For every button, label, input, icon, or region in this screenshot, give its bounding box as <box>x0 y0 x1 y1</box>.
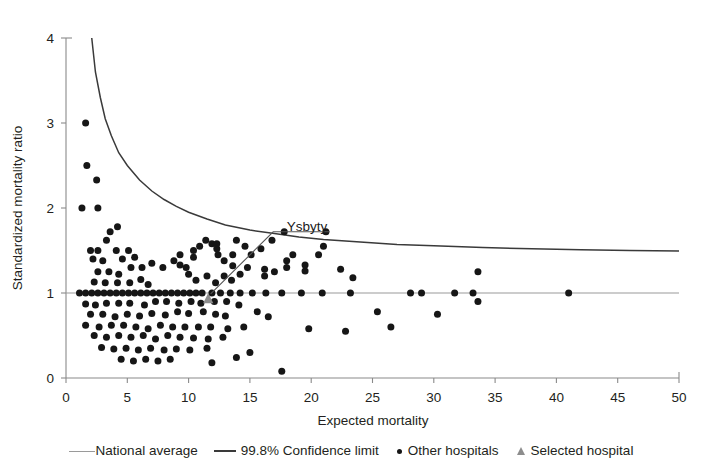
data-point <box>89 256 96 263</box>
data-point <box>82 322 89 329</box>
data-point <box>315 251 322 258</box>
data-point <box>418 290 425 297</box>
data-point <box>113 290 120 297</box>
data-point <box>143 290 150 297</box>
y-tick-label: 4 <box>46 31 54 46</box>
data-point <box>387 324 394 331</box>
data-point <box>96 324 103 331</box>
x-tick-label: 5 <box>124 390 132 405</box>
x-tick-label: 25 <box>365 390 380 405</box>
data-point <box>228 277 235 284</box>
data-point <box>120 322 127 329</box>
confidence-limit-curve <box>92 38 679 251</box>
data-point <box>150 290 157 297</box>
data-point <box>203 273 210 280</box>
data-point <box>132 324 139 331</box>
data-point <box>125 290 132 297</box>
data-point <box>374 308 381 315</box>
data-point <box>233 354 240 361</box>
data-point <box>125 247 132 254</box>
data-point <box>164 332 171 339</box>
data-point <box>141 301 148 308</box>
data-point <box>212 311 219 318</box>
data-point <box>83 162 90 169</box>
data-point <box>197 300 204 307</box>
data-point <box>94 290 101 297</box>
data-point <box>215 251 222 258</box>
data-point <box>103 334 110 341</box>
data-point <box>261 273 268 280</box>
data-point <box>470 290 477 297</box>
x-axis-tick-labels: 05101520253035404550 <box>62 390 686 405</box>
data-point <box>261 266 268 273</box>
data-point <box>242 243 249 250</box>
data-point <box>565 290 572 297</box>
data-point <box>115 271 122 278</box>
data-point <box>195 324 202 331</box>
x-tick-label: 15 <box>242 390 257 405</box>
y-tick-label: 0 <box>46 371 54 386</box>
data-point <box>108 322 115 329</box>
data-point <box>213 240 220 247</box>
data-point <box>101 290 108 297</box>
data-point <box>181 324 188 331</box>
data-point <box>93 176 100 183</box>
x-tick-label: 45 <box>610 390 625 405</box>
legend-label-national-average: National average <box>96 444 198 458</box>
data-point <box>154 358 161 365</box>
data-point <box>474 298 481 305</box>
data-point <box>126 300 133 307</box>
data-point <box>139 264 146 271</box>
legend-item-other-hospitals: Other hospitals <box>395 444 499 458</box>
chart-legend: National average 99.8% Confidence limit … <box>0 440 702 462</box>
data-point <box>233 237 240 244</box>
data-point <box>114 223 121 230</box>
data-point <box>99 257 106 264</box>
triangle-icon <box>517 447 525 455</box>
data-point <box>283 257 290 264</box>
data-point <box>190 247 197 254</box>
data-point <box>94 268 101 275</box>
line-light-icon <box>69 451 95 452</box>
y-tick-label: 2 <box>46 201 54 216</box>
data-point <box>140 332 147 339</box>
data-point <box>103 237 110 244</box>
data-point <box>196 243 203 250</box>
data-point <box>78 205 85 212</box>
data-point <box>105 268 112 275</box>
y-axis-tick-labels: 01234 <box>46 31 54 386</box>
data-point <box>305 325 312 332</box>
data-point <box>152 335 159 342</box>
data-point <box>434 311 441 318</box>
legend-label-other-hospitals: Other hospitals <box>408 444 499 458</box>
data-point <box>131 254 138 261</box>
data-point <box>162 290 169 297</box>
data-point <box>240 324 247 331</box>
data-point <box>177 261 184 268</box>
data-point <box>349 274 356 281</box>
data-point <box>254 308 261 315</box>
data-point <box>199 290 206 297</box>
data-point <box>98 344 105 351</box>
data-point <box>235 301 242 308</box>
data-point <box>208 359 215 366</box>
data-point <box>137 290 144 297</box>
data-point <box>167 356 174 363</box>
legend-label-confidence-limit: 99.8% Confidence limit <box>241 444 379 458</box>
data-point <box>244 264 251 271</box>
data-point <box>110 346 117 353</box>
data-point <box>136 312 143 319</box>
data-point <box>107 290 114 297</box>
data-point <box>205 335 212 342</box>
data-point <box>200 308 207 315</box>
data-point <box>289 251 296 258</box>
data-point <box>174 308 181 315</box>
data-point <box>148 310 155 317</box>
data-point <box>207 324 214 331</box>
data-point <box>217 290 224 297</box>
data-point <box>320 243 327 250</box>
data-point <box>162 312 169 319</box>
data-point <box>278 368 285 375</box>
data-point <box>302 261 309 268</box>
x-tick-label: 10 <box>181 390 196 405</box>
